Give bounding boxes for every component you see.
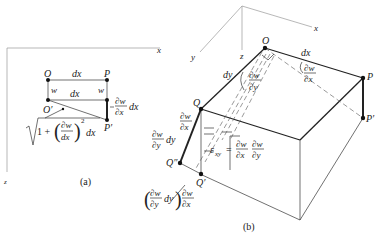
- label-dx-mid: dx: [70, 88, 80, 99]
- y-axis-label-b: y: [190, 52, 195, 62]
- label-p-prime-a: P′: [103, 122, 113, 133]
- label-q-b: Q: [193, 97, 201, 108]
- svg-text:∂x: ∂x: [180, 122, 188, 132]
- slope-x-fraction: ∂w ∂x: [304, 63, 316, 84]
- x-axis-b: [242, 6, 312, 27]
- caption-a: (a): [80, 176, 91, 188]
- label-dx-top: dx: [72, 68, 82, 79]
- label-dx-b: dx: [301, 47, 311, 58]
- svg-text:∂y: ∂y: [252, 150, 260, 160]
- label-p-a: P: [103, 68, 110, 79]
- svg-text:∂w: ∂w: [61, 120, 71, 130]
- dwdx-fraction: ∂w ∂x dx: [115, 96, 139, 117]
- y-axis-b: [200, 6, 242, 52]
- label-q-prime-b: Q′: [196, 177, 206, 188]
- x-axis-label-a: x: [156, 45, 161, 55]
- point-p-prime-b: [361, 116, 365, 120]
- svg-text:∂w: ∂w: [236, 139, 246, 149]
- edge-p-front: [300, 78, 363, 140]
- point-o-b: [263, 46, 267, 50]
- dash-o-q-4: [230, 56, 274, 140]
- svg-text:∂w: ∂w: [249, 70, 259, 80]
- svg-text:∂w: ∂w: [182, 188, 192, 198]
- svg-text:(: (: [54, 120, 61, 143]
- edge-q-front: [201, 109, 300, 140]
- svg-text:∂w: ∂w: [180, 111, 190, 121]
- svg-text:1 +: 1 +: [37, 126, 51, 137]
- point-q-dprime-b: [178, 161, 182, 165]
- label-p-b: P: [366, 71, 373, 82]
- svg-text:∂x: ∂x: [236, 150, 244, 160]
- svg-text:2: 2: [81, 117, 85, 125]
- svg-text:∂w: ∂w: [115, 96, 125, 106]
- z-axis-label-a: z: [3, 178, 7, 186]
- z-axis-label-b: z: [239, 51, 244, 61]
- label-dy-b: dy: [223, 69, 233, 80]
- point-o-prime-a: [46, 98, 50, 102]
- label-w-right: w: [98, 85, 104, 95]
- svg-text:∂y: ∂y: [249, 82, 257, 92]
- svg-text:∂w: ∂w: [150, 188, 160, 198]
- shear-strain-expression: ε xy = ∂w ∂x ∂w ∂y: [210, 139, 264, 160]
- plate-deformation-diagram: x z O P O′ P′ dx dx w w ∂w ∂x: [0, 0, 380, 238]
- svg-text:∂x: ∂x: [304, 74, 312, 84]
- arc-length-expression: 1 + ( ∂w dx ) 2 dx: [26, 117, 100, 145]
- q-slope-x-fraction: ∂w ∂x: [180, 111, 192, 132]
- svg-text:∂x: ∂x: [182, 199, 190, 209]
- svg-text:∂x: ∂x: [115, 107, 123, 117]
- dash-o-p-prime: [265, 48, 363, 118]
- label-p-prime-b: P′: [365, 113, 375, 124]
- label-w-left: w: [51, 85, 57, 95]
- label-q-dprime-b: Q″: [166, 157, 178, 168]
- slope-y-fraction: ∂w ∂y: [249, 70, 261, 92]
- svg-text:dy: dy: [166, 134, 176, 145]
- svg-text:∂w: ∂w: [152, 129, 162, 139]
- segment-o-prime-p-prime: [48, 100, 107, 120]
- angle-arc-x: [300, 62, 303, 73]
- point-q-prime-b: [199, 172, 203, 176]
- svg-text:∂y: ∂y: [150, 199, 158, 209]
- svg-text:∂w: ∂w: [304, 63, 314, 73]
- svg-text:=: =: [226, 144, 232, 155]
- figure-b: x y z: [144, 6, 375, 233]
- svg-text:dy: dy: [164, 193, 174, 204]
- label-o-prime-a: O′: [43, 104, 53, 115]
- point-mid-a: [105, 98, 109, 102]
- svg-text:∂y: ∂y: [152, 140, 160, 150]
- svg-text:∂w: ∂w: [252, 139, 262, 149]
- label-o-a: O: [44, 68, 51, 79]
- bottom-expression: ( ∂w ∂y dy ) ∂w ∂x: [144, 188, 194, 211]
- point-p-b: [361, 76, 365, 80]
- edge-right-bottom: [300, 118, 363, 220]
- q-dwdy-dy-fraction: ∂w ∂y dy: [152, 129, 176, 150]
- label-o-b: O: [262, 35, 269, 46]
- svg-text:): ): [175, 188, 182, 211]
- angle-arc-y: [241, 72, 244, 90]
- svg-text:dx: dx: [61, 132, 70, 142]
- svg-text:xy: xy: [214, 150, 222, 158]
- svg-text:): ): [74, 120, 81, 143]
- svg-text:dx: dx: [86, 127, 96, 138]
- caption-b: (b): [243, 221, 255, 233]
- svg-text:ε: ε: [210, 144, 214, 155]
- x-axis-label-b: x: [313, 23, 318, 33]
- figure-a: x z O P O′ P′ dx dx w w ∂w ∂x: [3, 45, 161, 188]
- edge-bottom-left: [200, 174, 300, 220]
- svg-text:dx: dx: [129, 101, 139, 112]
